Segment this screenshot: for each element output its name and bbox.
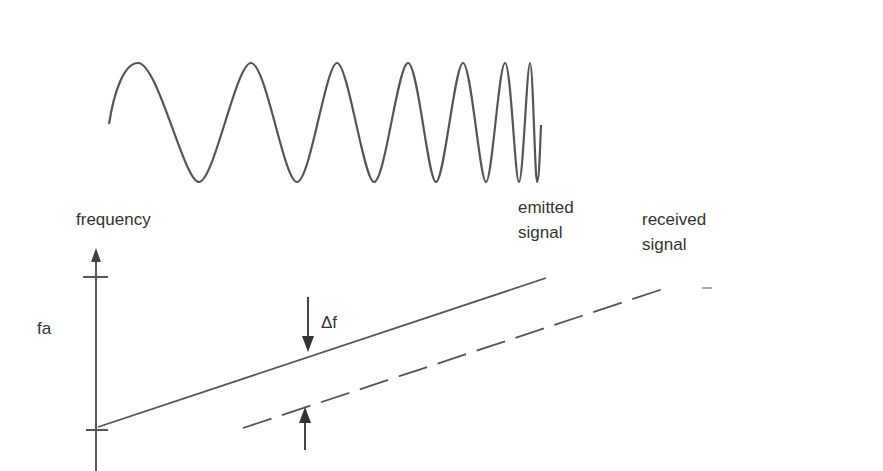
received-label-line1: received xyxy=(642,210,706,229)
down-arrowhead-icon xyxy=(302,336,314,352)
doppler-chirp-diagram: frequency fa emitted signal received sig… xyxy=(0,0,883,471)
y-axis-label: frequency xyxy=(76,210,151,229)
emitted-label-line2: signal xyxy=(518,223,562,242)
emitted-signal-line xyxy=(98,278,546,427)
axis-arrowhead-icon xyxy=(91,248,101,262)
delta-f-label: Δf xyxy=(321,313,337,332)
emitted-label-line1: emitted xyxy=(518,198,574,217)
received-label-line2: signal xyxy=(642,235,686,254)
fa-label: fa xyxy=(37,319,52,338)
chirp-waveform xyxy=(109,63,541,182)
